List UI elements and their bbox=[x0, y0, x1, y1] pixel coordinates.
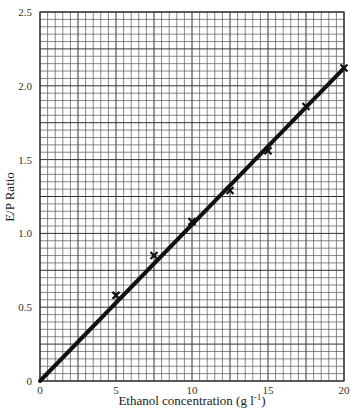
line-chart: 05101520 00.51.01.52.02.5 Ethanol concen… bbox=[0, 0, 356, 412]
x-tick-label: 0 bbox=[37, 384, 43, 396]
y-tick-label: 2.5 bbox=[18, 6, 32, 18]
y-axis-ticks: 00.51.01.52.02.5 bbox=[18, 6, 32, 387]
y-tick-label: 1.0 bbox=[18, 227, 32, 239]
y-tick-label: 1.5 bbox=[18, 154, 32, 166]
y-tick-label: 0.5 bbox=[18, 301, 32, 313]
y-axis-label: E/P Ratio bbox=[2, 172, 17, 222]
chart-grid bbox=[40, 12, 344, 381]
x-axis-label: Ethanol concentration (g l-1) bbox=[118, 392, 265, 408]
y-tick-label: 0 bbox=[27, 375, 33, 387]
x-tick-label: 20 bbox=[339, 384, 351, 396]
y-tick-label: 2.0 bbox=[18, 80, 32, 92]
